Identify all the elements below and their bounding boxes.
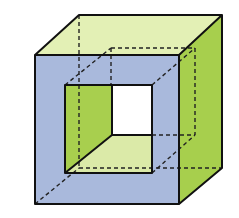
hollow-cube-diagram bbox=[0, 0, 239, 218]
through-opening bbox=[112, 85, 152, 135]
diagram-canvas bbox=[0, 0, 239, 218]
